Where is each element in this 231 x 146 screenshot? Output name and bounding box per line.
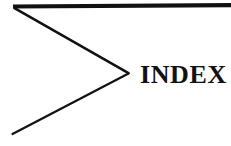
index-divider-page: INDEX [0, 0, 231, 146]
chevron-upper-stroke-line [15, 8, 129, 73]
horizontal-rule-line [13, 5, 231, 6]
chevron-lower-stroke-line [13, 74, 129, 134]
page-title: INDEX [140, 60, 228, 90]
